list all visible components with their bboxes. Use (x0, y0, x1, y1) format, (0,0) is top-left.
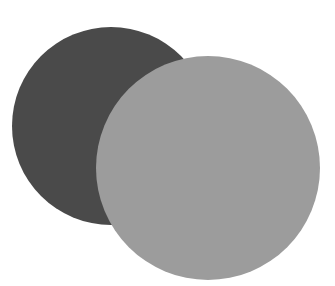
light-circle (96, 56, 320, 280)
overlapping-circles-diagram (0, 0, 335, 286)
